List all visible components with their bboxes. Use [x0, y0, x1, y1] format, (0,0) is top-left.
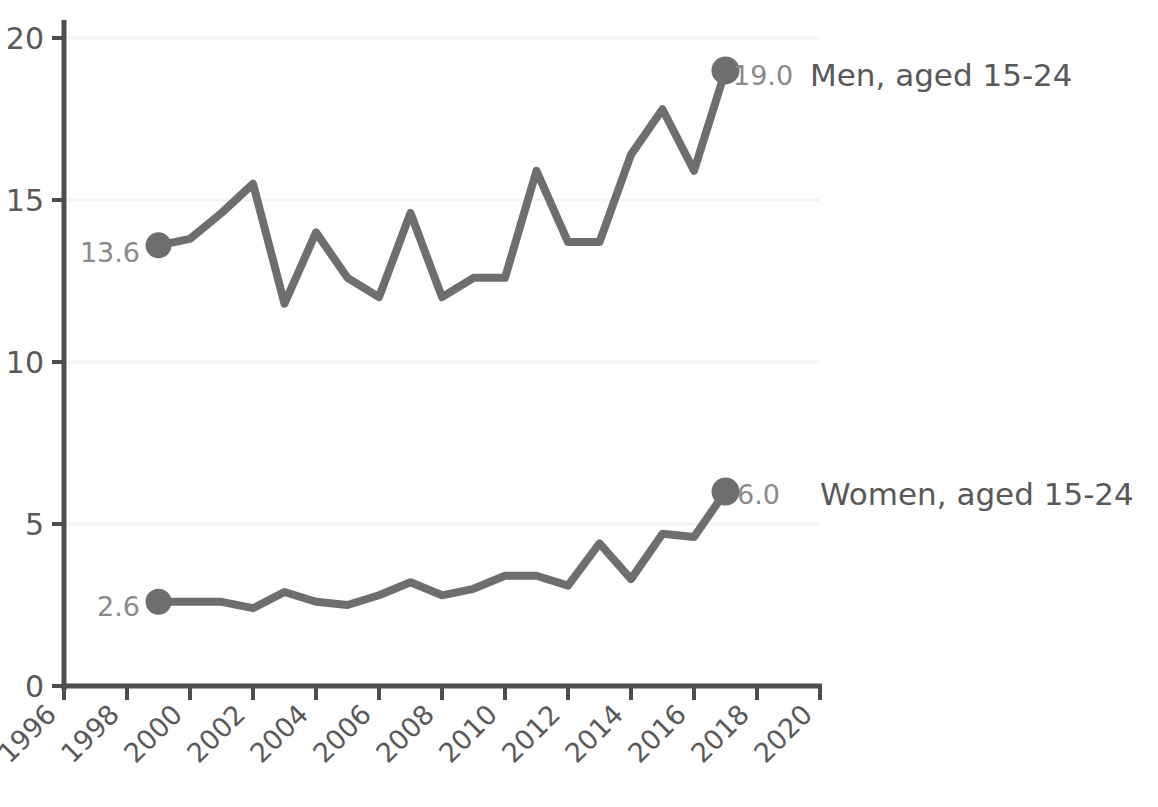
- women-end-value-label: 6.0: [737, 479, 780, 510]
- men-start-value-label: 13.6: [80, 237, 140, 268]
- y-tick-label-15: 15: [6, 183, 44, 218]
- x-tick-label-2010: 2010: [433, 698, 504, 769]
- men-start-marker: [146, 232, 172, 258]
- women-start-marker: [146, 589, 172, 615]
- chart-canvas: 20 15 10 5 0 1996 1998 2000 2002: [0, 0, 1158, 807]
- men-series-label: Men, aged 15-24: [810, 57, 1073, 93]
- y-tick-label-10: 10: [6, 345, 44, 380]
- x-tick-label-1998: 1998: [55, 698, 126, 769]
- x-tick-label-2004: 2004: [244, 698, 315, 769]
- x-axis-tick-labels: 1996 1998 2000 2002 2004 2006 2008 2010 …: [0, 698, 818, 769]
- x-tick-label-2002: 2002: [181, 698, 252, 769]
- x-tick-label-2000: 2000: [118, 698, 189, 769]
- x-tick-label-2018: 2018: [685, 698, 756, 769]
- women-start-value-label: 2.6: [97, 591, 140, 622]
- y-tick-label-20: 20: [6, 21, 44, 56]
- y-axis: [52, 20, 64, 690]
- x-tick-label-2020: 2020: [748, 698, 819, 769]
- y-tick-label-5: 5: [25, 507, 44, 542]
- y-axis-tick-labels: 20 15 10 5 0: [6, 21, 44, 704]
- men-end-value-label: 19.0: [733, 60, 793, 91]
- x-axis: [64, 686, 822, 700]
- series-line-men: [159, 70, 726, 303]
- x-tick-label-1996: 1996: [0, 698, 62, 769]
- women-end-marker: [712, 478, 740, 506]
- series-line-women: [159, 492, 726, 609]
- x-tick-label-2012: 2012: [496, 698, 567, 769]
- x-tick-label-2014: 2014: [559, 698, 630, 769]
- x-tick-label-2008: 2008: [370, 698, 441, 769]
- line-chart: 20 15 10 5 0 1996 1998 2000 2002: [0, 0, 1158, 807]
- women-series-label: Women, aged 15-24: [820, 476, 1134, 512]
- x-tick-label-2016: 2016: [622, 698, 693, 769]
- y-tick-label-0: 0: [25, 669, 44, 704]
- gridlines: [64, 38, 820, 524]
- x-tick-label-2006: 2006: [307, 698, 378, 769]
